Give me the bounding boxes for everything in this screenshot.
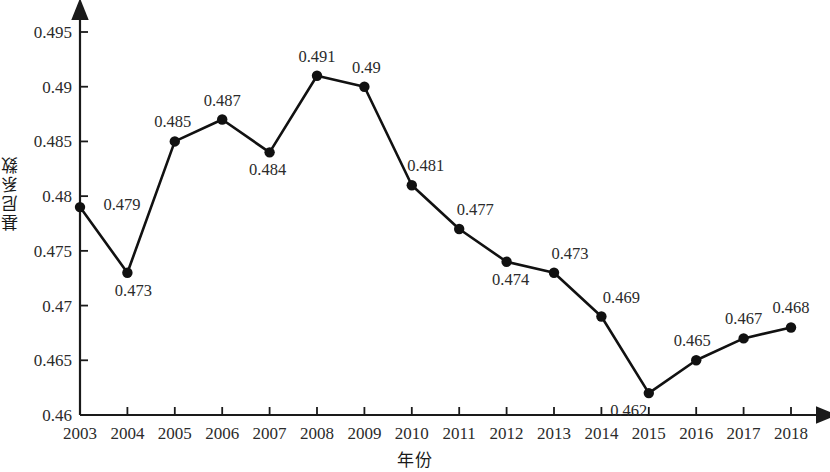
y-axis-title: 基尼系数 [2, 155, 24, 231]
x-tick-label: 2003 [63, 425, 97, 442]
point-value-label: 0.468 [772, 300, 809, 317]
data-point-marker [691, 355, 701, 365]
data-point-marker [75, 202, 85, 212]
data-point-marker [596, 311, 606, 321]
point-value-label: 0.481 [407, 158, 444, 175]
chart-plot-area [0, 0, 830, 472]
x-tick-label: 2018 [774, 425, 808, 442]
y-tick-label: 0.47 [0, 297, 72, 314]
x-tick-label: 2016 [679, 425, 713, 442]
y-tick-label: 0.475 [0, 242, 72, 259]
data-point-marker [264, 147, 274, 157]
data-point-marker [312, 71, 322, 81]
data-point-marker [644, 388, 654, 398]
gini-coefficient-line-chart: 0.460.4650.470.4750.480.4850.490.495 200… [0, 0, 830, 472]
data-point-marker [122, 268, 132, 278]
point-value-label: 0.477 [457, 202, 494, 219]
data-point-marker [738, 333, 748, 343]
data-point-marker [217, 114, 227, 124]
point-value-label: 0.479 [103, 197, 140, 214]
y-axis-ticks [80, 32, 88, 360]
data-point-marker [786, 322, 796, 332]
x-tick-label: 2012 [490, 425, 524, 442]
y-tick-label: 0.485 [0, 133, 72, 150]
data-point-marker [549, 268, 559, 278]
point-value-label: 0.49 [352, 60, 381, 77]
x-tick-label: 2009 [347, 425, 381, 442]
point-value-label: 0.473 [551, 246, 588, 263]
point-value-label: 0.465 [674, 333, 711, 350]
y-tick-label: 0.465 [0, 352, 72, 369]
x-tick-label: 2007 [253, 425, 287, 442]
x-axis-title: 年份 [0, 446, 830, 471]
point-value-label: 0.474 [492, 272, 529, 289]
point-value-label: 0.462 [610, 403, 647, 420]
x-tick-label: 2014 [584, 425, 618, 442]
y-tick-label: 0.49 [0, 78, 72, 95]
data-point-marker [454, 224, 464, 234]
data-point-marker [407, 180, 417, 190]
x-tick-label: 2013 [537, 425, 571, 442]
x-tick-label: 2010 [395, 425, 429, 442]
data-point-marker [170, 136, 180, 146]
point-value-label: 0.487 [204, 93, 241, 110]
x-tick-label: 2005 [158, 425, 192, 442]
point-value-label: 0.484 [249, 162, 286, 179]
point-value-label: 0.491 [298, 49, 335, 66]
x-tick-label: 2004 [110, 425, 144, 442]
data-point-marker [501, 257, 511, 267]
point-value-label: 0.473 [115, 283, 152, 300]
x-tick-label: 2011 [443, 425, 476, 442]
x-axis-ticks [127, 407, 791, 415]
x-tick-label: 2008 [300, 425, 334, 442]
x-tick-label: 2015 [632, 425, 666, 442]
point-value-label: 0.485 [154, 114, 191, 131]
y-tick-label: 0.495 [0, 24, 72, 41]
x-tick-label: 2017 [727, 425, 761, 442]
data-point-marker [359, 82, 369, 92]
x-tick-label: 2006 [205, 425, 239, 442]
point-value-label: 0.467 [725, 311, 762, 328]
y-tick-label: 0.46 [0, 407, 72, 424]
point-value-label: 0.469 [603, 290, 640, 307]
